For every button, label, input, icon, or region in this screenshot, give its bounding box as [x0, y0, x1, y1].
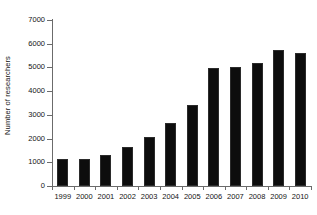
- x-axis-tick: [203, 186, 204, 190]
- bar: [122, 147, 133, 186]
- x-axis-tick-label: 2000: [74, 192, 96, 201]
- x-axis-tick-label: 2004: [160, 192, 182, 201]
- x-axis-tick-label: 2010: [289, 192, 311, 201]
- y-axis-tick: [47, 67, 53, 68]
- y-axis-tick-label: 2000: [14, 135, 45, 143]
- x-axis-tick: [52, 186, 53, 190]
- y-axis-tick-label: 3000: [14, 111, 45, 119]
- y-axis-tick: [47, 20, 53, 21]
- bar: [295, 53, 306, 186]
- bar: [79, 159, 90, 186]
- x-axis-tick-label: 1999: [52, 192, 74, 201]
- y-axis-tick-label: 0: [14, 182, 45, 190]
- x-axis-tick-label: 2005: [182, 192, 204, 201]
- y-axis-tick: [47, 139, 53, 140]
- bar: [273, 50, 284, 186]
- y-axis-tick-label: 5000: [14, 63, 45, 71]
- bar: [165, 123, 176, 186]
- bar: [100, 155, 111, 186]
- y-axis-tick: [47, 115, 53, 116]
- x-axis-tick-label: 2008: [246, 192, 268, 201]
- x-axis-tick: [160, 186, 161, 190]
- x-axis-tick: [95, 186, 96, 190]
- y-axis-tick: [47, 44, 53, 45]
- x-axis-tick-label: 2007: [225, 192, 247, 201]
- y-axis-title-label: Number of researchers: [3, 56, 12, 135]
- x-axis-tick: [246, 186, 247, 190]
- x-axis-tick-label: 2003: [138, 192, 160, 201]
- y-axis-tick: [47, 162, 53, 163]
- x-axis-tick: [289, 186, 290, 190]
- x-axis-tick: [225, 186, 226, 190]
- x-axis-tick: [268, 186, 269, 190]
- bar: [187, 105, 198, 186]
- x-axis-tick-label: 2009: [268, 192, 290, 201]
- y-axis-title: Number of researchers: [0, 0, 14, 190]
- bar: [57, 159, 68, 186]
- y-axis-tick-label: 4000: [14, 87, 45, 95]
- x-axis-tick-label: 2002: [117, 192, 139, 201]
- bar: [144, 137, 155, 186]
- x-axis-tick: [117, 186, 118, 190]
- x-axis-tick: [311, 186, 312, 190]
- x-axis-tick: [74, 186, 75, 190]
- y-axis-tick-label: 7000: [14, 16, 45, 24]
- x-axis-tick: [138, 186, 139, 190]
- x-axis-tick-label: 2001: [95, 192, 117, 201]
- x-axis-tick-label: 2006: [203, 192, 225, 201]
- bar: [230, 67, 241, 186]
- y-axis-tick-label: 6000: [14, 40, 45, 48]
- bar: [208, 68, 219, 186]
- bar: [252, 63, 263, 186]
- x-axis-tick: [182, 186, 183, 190]
- y-axis-tick: [47, 91, 53, 92]
- bar-chart-figure: Number of researchers 010002000300040005…: [0, 0, 317, 215]
- y-axis-tick-label: 1000: [14, 158, 45, 166]
